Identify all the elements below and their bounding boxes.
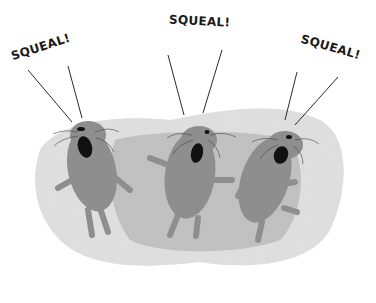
illustration: SQUEAL! SQUEAL! SQUEAL!: [0, 0, 376, 303]
